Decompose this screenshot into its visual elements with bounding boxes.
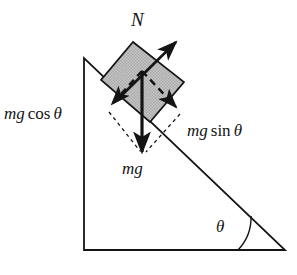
incline-angle-label: θ [216, 218, 224, 235]
mgsin-function: sin [211, 121, 231, 140]
mgsin-angle: θ [234, 121, 242, 140]
normal-force-label: N [131, 10, 144, 29]
construction-line-left [109, 112, 140, 151]
weight-label: mg [122, 160, 143, 177]
mgcos-angle: θ [53, 104, 61, 123]
weight-perpendicular-component-label: mgcosθ [4, 105, 62, 122]
incline-angle-arc [238, 216, 251, 250]
diagram-canvas [0, 0, 297, 275]
weight-parallel-component-label: mgsinθ [187, 122, 242, 139]
mgcos-function: cos [28, 104, 51, 123]
mgsin-scalar: mg [187, 121, 208, 140]
physics-diagram-figure: N mgcosθ mgsinθ mg θ [0, 0, 297, 275]
mgcos-scalar: mg [4, 104, 25, 123]
